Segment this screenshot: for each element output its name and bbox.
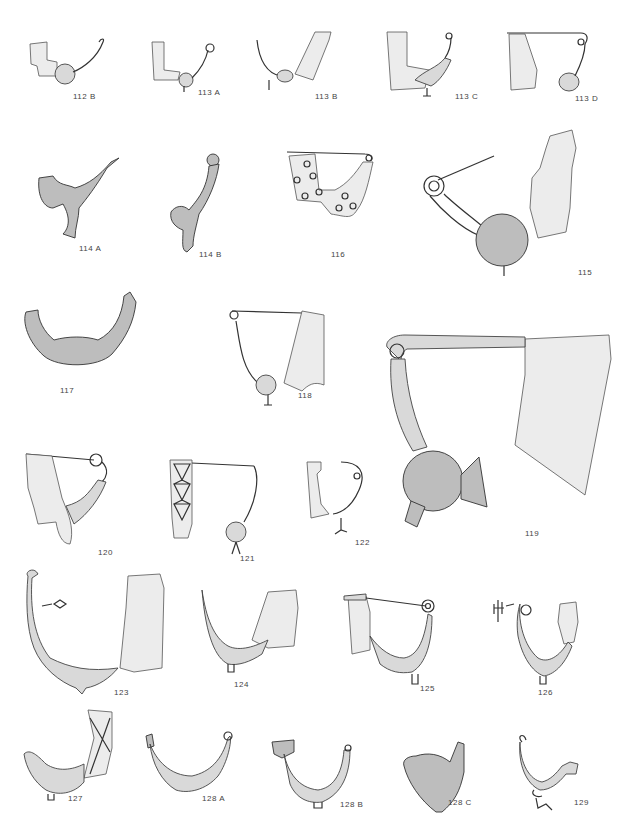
figure-label: 112 B (73, 92, 96, 101)
figure-label: 113 C (455, 92, 478, 101)
fibula-drawing-114a (35, 158, 135, 258)
figure-label: 113 B (315, 92, 338, 101)
fibula-drawing-119 (375, 335, 615, 545)
fibula-drawing-115 (420, 128, 620, 278)
figure-label: 122 (355, 538, 370, 547)
figure-label: 128 C (448, 798, 472, 807)
figure-label: 124 (234, 680, 249, 689)
fibula-drawing-125 (340, 592, 460, 702)
fibula-drawing-127 (22, 708, 122, 808)
fibula-drawing-114b (155, 150, 255, 260)
fibula-drawing-118 (228, 305, 338, 415)
figure-label: 121 (240, 554, 255, 563)
fibula-drawing-112b (25, 40, 115, 100)
fibula-drawing-120 (22, 448, 132, 558)
fibula-drawing-113c (385, 30, 485, 100)
figure-label: 127 (68, 794, 83, 803)
fibula-drawing-116 (285, 150, 395, 250)
figure-label: 128 A (202, 794, 225, 803)
fibula-drawing-124 (198, 588, 308, 688)
figure-label: 113 A (198, 88, 220, 97)
fibula-drawing-126 (490, 592, 600, 702)
fibula-drawing-123 (20, 568, 170, 698)
figure-label: 116 (331, 250, 345, 259)
figure-label: 129 (574, 798, 589, 807)
fibula-drawing-128c (400, 742, 490, 822)
figure-label: 125 (420, 684, 435, 693)
figure-label: 113 D (575, 94, 598, 103)
figure-label: 128 B (340, 800, 363, 809)
figure-label: 117 (60, 386, 74, 395)
fibula-drawing-121 (168, 458, 278, 568)
fibula-drawing-128a (142, 732, 242, 812)
figure-label: 119 (525, 529, 539, 538)
fibula-drawing-113b (255, 30, 345, 100)
figure-label: 114 B (199, 250, 222, 259)
figure-label: 114 A (79, 244, 101, 253)
figure-label: 123 (114, 688, 129, 697)
figure-label: 118 (298, 391, 312, 400)
figure-label: 126 (538, 688, 553, 697)
fibula-drawing-113d (505, 30, 605, 100)
fibula-drawing-122 (305, 460, 385, 560)
fibula-drawing-117 (18, 292, 148, 392)
fibula-drawing-129 (512, 734, 602, 824)
figure-label: 120 (98, 548, 113, 557)
figure-label: 115 (578, 268, 592, 277)
